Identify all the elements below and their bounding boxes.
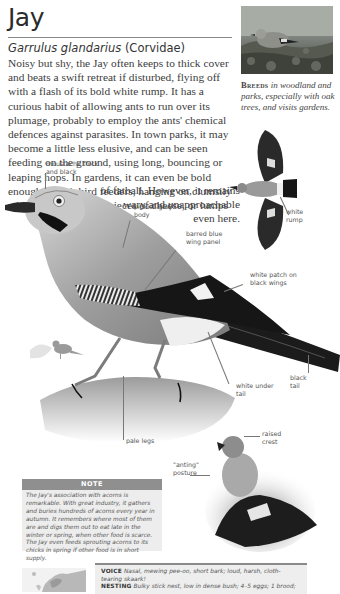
nesting-text: Bulky stick nest, low in dense bush; 4–5… [133, 583, 295, 589]
page-title: Jay [8, 0, 44, 36]
voice-text: Nasal, mewing pee-oo, short bark; loud, … [101, 568, 281, 582]
distribution-map [22, 568, 86, 592]
note-box: NOTE The Jay's association with acorns i… [22, 479, 162, 551]
leader-moustache [45, 173, 46, 189]
label-moustache: moustache thick and black [46, 160, 106, 175]
label-white-rump: white rump [286, 208, 316, 223]
leader-legs [123, 376, 124, 440]
family-name: (Corvidae) [125, 41, 185, 55]
title-divider [8, 37, 232, 38]
nesting-label: NESTING [101, 583, 132, 589]
latin-name: Garrulus glandarius [8, 41, 121, 55]
leader-black-tail [308, 355, 309, 373]
leader-crest [244, 436, 260, 437]
breeds-label: Breeds [241, 80, 268, 90]
label-crest: raised crest [262, 430, 292, 445]
label-black-tail: black tail [290, 374, 315, 389]
label-body: pinkish grey body [134, 203, 174, 218]
flying-jay-illustration [225, 128, 300, 253]
scientific-name: Garrulus glandarius (Corvidae) [8, 40, 185, 56]
habitat-photo [241, 6, 333, 74]
label-anting: "anting" posture [173, 461, 207, 476]
jay-photo-icon [241, 6, 333, 74]
note-text: The Jay's association with acorns is rem… [22, 490, 162, 565]
facts-panel: VOICE Nasal, mewing pee-oo, short bark; … [95, 563, 307, 594]
label-white-patch: white patch on black wings [250, 271, 315, 286]
small-bird-icon [53, 341, 85, 360]
label-legs: pale legs [126, 437, 166, 445]
note-heading: NOTE [22, 479, 162, 490]
nesting-row: NESTING Bulky stick nest, low in dense b… [95, 583, 307, 591]
label-under-tail: white under tail [236, 382, 276, 397]
voice-label: VOICE [101, 568, 122, 574]
voice-row: VOICE Nasal, mewing pee-oo, short bark; … [95, 565, 307, 583]
breeds-caption: Breeds in woodland and parks, especially… [241, 80, 336, 112]
leader-anting [190, 475, 210, 476]
label-wing-panel: barred blue wing panel [186, 230, 236, 245]
europe-map-icon [22, 568, 86, 592]
